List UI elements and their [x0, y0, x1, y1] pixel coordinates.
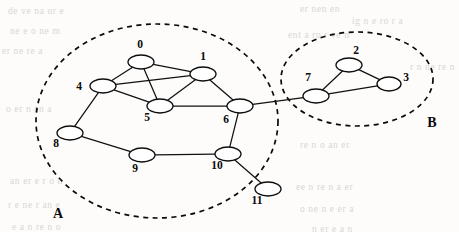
- graph-node-label-4: 4: [76, 80, 82, 92]
- graph-node-6: [227, 99, 253, 113]
- graph-edge-7-3: [328, 86, 377, 94]
- graph-node-label-7: 7: [305, 71, 311, 83]
- graph-edge-4-8: [75, 93, 99, 127]
- graph-node-4: [90, 79, 116, 93]
- graph-node-label-9: 9: [132, 162, 138, 174]
- cluster-boundary-a: [36, 24, 278, 218]
- graph-node-5: [147, 99, 173, 113]
- graph-edge-9-10: [155, 154, 215, 155]
- graph-node-9: [129, 148, 155, 162]
- graph-edge-1-5: [168, 80, 196, 101]
- graph-edge-0-5: [144, 69, 157, 99]
- graph-edge-6-10: [230, 113, 239, 147]
- graph-node-label-3: 3: [403, 71, 409, 83]
- graph-edge-10-11: [235, 160, 261, 183]
- graph-node-label-8: 8: [53, 137, 59, 149]
- graph-edge-0-4: [111, 67, 132, 80]
- graph-node-label-1: 1: [200, 50, 206, 62]
- graph-node-label-2: 2: [353, 44, 359, 56]
- graph-node-label-11: 11: [252, 194, 263, 206]
- graph-node-8: [57, 126, 83, 140]
- graph-node-label-10: 10: [211, 159, 223, 171]
- graph-node-label-6: 6: [223, 113, 229, 125]
- graph-edge-2-3: [359, 70, 380, 80]
- graph-node-7: [303, 89, 329, 103]
- cluster-label-a: A: [53, 206, 64, 221]
- cluster-label-b: B: [427, 115, 436, 130]
- graph-edge-7-2: [322, 71, 342, 90]
- graph-edge-8-9: [81, 136, 130, 151]
- graph-edge-6-7: [253, 98, 304, 105]
- graph-figure: de ve na ur eer nen enig n e ro r ane e …: [0, 0, 459, 232]
- graph-node-label-5: 5: [144, 111, 150, 123]
- graph-edge-0-1: [153, 64, 191, 71]
- cluster-boundaries: [36, 24, 433, 218]
- graph-edge-4-5: [114, 90, 149, 102]
- graph-node-3: [377, 77, 401, 91]
- graph-node-1: [190, 67, 216, 81]
- graph-node-0: [128, 55, 154, 69]
- graph-node-2: [336, 58, 362, 72]
- graph-node-label-0: 0: [137, 38, 143, 50]
- graph-canvas: 01234567891011 AB: [0, 0, 459, 232]
- graph-edge-1-6: [210, 80, 233, 100]
- graph-edge-4-1: [116, 76, 191, 85]
